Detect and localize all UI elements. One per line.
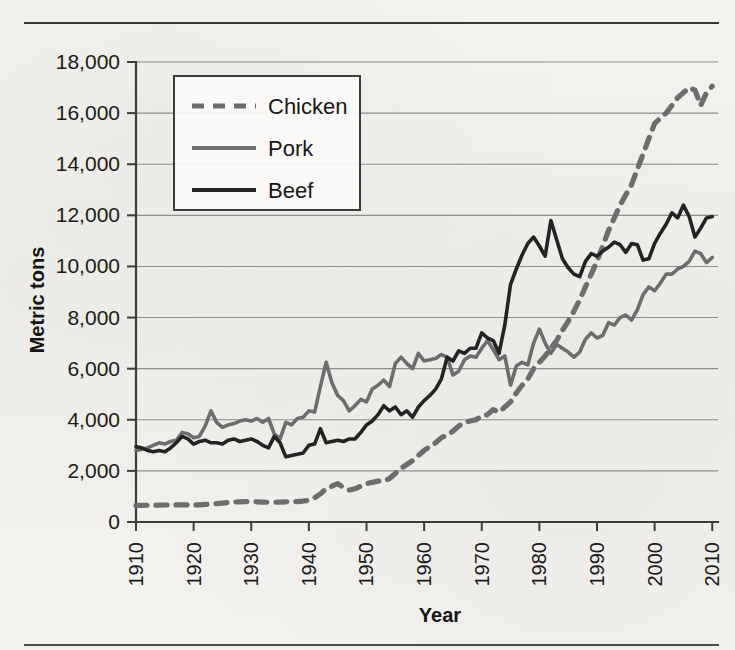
- y-tick-label: 18,000: [56, 50, 120, 73]
- line-chart: 02,0004,0006,0008,00010,00012,00014,0001…: [0, 0, 735, 650]
- legend-label-beef: Beef: [268, 178, 314, 203]
- x-tick-label: 1960: [413, 542, 435, 587]
- chart-svg: 02,0004,0006,0008,00010,00012,00014,0001…: [0, 0, 735, 650]
- y-tick-label: 4,000: [67, 408, 120, 431]
- x-tick-label: 1930: [240, 542, 262, 587]
- x-tick-label: 1980: [528, 542, 550, 587]
- x-axis-ticks: 1910192019301940195019601970198019902000…: [125, 522, 723, 587]
- x-tick-label: 2000: [644, 542, 666, 587]
- legend-label-chicken: Chicken: [268, 94, 347, 119]
- x-tick-label: 1950: [355, 542, 377, 587]
- legend-label-pork: Pork: [268, 136, 314, 161]
- legend: ChickenPorkBeef: [174, 76, 360, 210]
- y-tick-label: 8,000: [67, 306, 120, 329]
- y-axis-title: Metric tons: [26, 247, 48, 354]
- x-tick-label: 1940: [298, 542, 320, 587]
- y-tick-label: 6,000: [67, 357, 120, 380]
- y-tick-label: 0: [108, 510, 120, 533]
- x-tick-label: 1910: [125, 542, 147, 587]
- y-tick-label: 16,000: [56, 101, 120, 124]
- y-tick-label: 10,000: [56, 254, 120, 277]
- x-tick-label: 1920: [183, 542, 205, 587]
- y-tick-label: 2,000: [67, 459, 120, 482]
- y-tick-label: 12,000: [56, 203, 120, 226]
- y-tick-label: 14,000: [56, 152, 120, 175]
- series-line-pork: [136, 251, 712, 450]
- x-axis-title: Year: [419, 604, 461, 626]
- series-line-beef: [136, 205, 712, 457]
- x-tick-label: 1990: [586, 542, 608, 587]
- y-axis-ticks: 02,0004,0006,0008,00010,00012,00014,0001…: [56, 50, 136, 533]
- figure-canvas: 02,0004,0006,0008,00010,00012,00014,0001…: [0, 0, 735, 650]
- x-tick-label: 1970: [471, 542, 493, 587]
- x-tick-label: 2010: [701, 542, 723, 587]
